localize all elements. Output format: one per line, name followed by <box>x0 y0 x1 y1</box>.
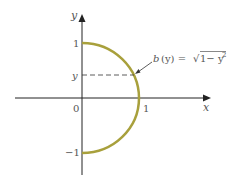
formula-sqrt-body: 1− y <box>200 53 224 64</box>
annotation-arrow-icon <box>135 69 141 74</box>
y-tick-1: 1 <box>73 38 79 49</box>
formula-exponent: 2 <box>222 51 226 59</box>
x-tick-1: 1 <box>143 103 149 114</box>
y-axis-label: y <box>70 9 78 22</box>
y-axis-arrow-icon <box>79 14 86 22</box>
origin-label: 0 <box>73 103 79 114</box>
y-tick-neg1: −1 <box>65 147 80 158</box>
formula-b: b <box>153 53 159 64</box>
annotation-pointer <box>138 62 152 72</box>
x-axis-label: x <box>203 101 210 114</box>
y-tick-var: y <box>71 70 78 81</box>
sqrt-icon: √ <box>193 53 200 64</box>
formula-arg: (y) = <box>161 53 189 64</box>
semicircle-diagram: y x 0 1 1 −1 y b (y) = √ 1− y 2 <box>0 0 229 180</box>
